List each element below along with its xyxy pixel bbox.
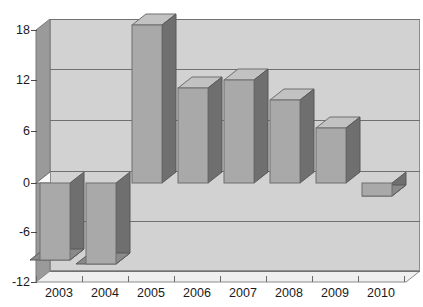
gridline-18 bbox=[50, 19, 420, 20]
ytick-mark-18 bbox=[31, 30, 37, 31]
xtick-mark-0 bbox=[36, 276, 37, 282]
xtick-label-2006: 2006 bbox=[174, 287, 220, 300]
gridline-neg6 bbox=[50, 221, 420, 222]
chart-floor bbox=[36, 271, 420, 282]
gridline-6 bbox=[50, 120, 420, 121]
xtick-label-2009: 2009 bbox=[312, 287, 358, 300]
ytick-mark-0 bbox=[31, 183, 37, 184]
ytick-label-18: 18 bbox=[16, 24, 30, 37]
xtick-mark-3 bbox=[174, 276, 175, 282]
ytick-mark-neg6 bbox=[31, 232, 37, 233]
ytick-12: 12 bbox=[0, 74, 30, 86]
plot-area-backwall bbox=[50, 19, 420, 271]
xtick-mark-4 bbox=[220, 276, 221, 282]
gridline-12 bbox=[50, 69, 420, 70]
bar-chart: 18 12 6 0 -6 -12 bbox=[0, 0, 423, 307]
ytick-label-12: 12 bbox=[16, 74, 30, 87]
xtick-label-2003: 2003 bbox=[36, 287, 82, 300]
ytick-neg12: -12 bbox=[0, 276, 30, 288]
left-wall bbox=[36, 19, 50, 282]
ytick-mark-6 bbox=[31, 131, 37, 132]
ytick-0: 0 bbox=[0, 177, 30, 189]
xtick-mark-5 bbox=[266, 276, 267, 282]
xtick-mark-8 bbox=[404, 276, 405, 282]
xtick-mark-1 bbox=[82, 276, 83, 282]
xtick-label-2005: 2005 bbox=[128, 287, 174, 300]
ytick-18: 18 bbox=[0, 24, 30, 36]
xtick-mark-6 bbox=[312, 276, 313, 282]
ytick-label-neg12: -12 bbox=[12, 276, 30, 289]
gridline-0 bbox=[50, 171, 420, 172]
xtick-mark-7 bbox=[358, 276, 359, 282]
xtick-mark-2 bbox=[128, 276, 129, 282]
ytick-label-0: 0 bbox=[23, 177, 30, 190]
gridline-neg12 bbox=[50, 271, 420, 272]
ytick-6: 6 bbox=[0, 125, 30, 137]
ytick-neg6: -6 bbox=[0, 226, 30, 238]
xtick-label-2004: 2004 bbox=[82, 287, 128, 300]
ytick-label-6: 6 bbox=[23, 125, 30, 138]
xtick-label-2010: 2010 bbox=[358, 287, 404, 300]
xtick-label-2008: 2008 bbox=[266, 287, 312, 300]
ytick-mark-neg12 bbox=[31, 282, 37, 283]
ytick-label-neg6: -6 bbox=[19, 226, 30, 239]
ytick-mark-12 bbox=[31, 80, 37, 81]
xtick-label-2007: 2007 bbox=[220, 287, 266, 300]
